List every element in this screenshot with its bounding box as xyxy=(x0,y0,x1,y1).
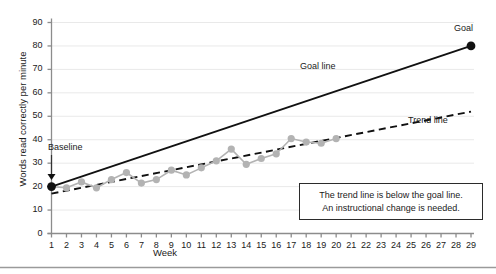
data-point xyxy=(78,178,85,185)
baseline-point xyxy=(47,182,56,191)
goal-point xyxy=(467,42,476,51)
y-tick-label: 30 xyxy=(21,157,43,167)
data-point xyxy=(183,171,190,178)
y-tick-label: 90 xyxy=(21,17,43,27)
baseline-arrow-head xyxy=(48,174,56,180)
data-point xyxy=(93,184,100,191)
data-point xyxy=(63,184,70,191)
trend-line-label: Trend line xyxy=(408,116,448,125)
baseline-arrow xyxy=(48,155,56,180)
y-tick-label: 60 xyxy=(21,87,43,97)
instructional-callout-box: The trend line is below the goal line. A… xyxy=(299,183,483,220)
data-point xyxy=(198,164,205,171)
data-point xyxy=(213,157,220,164)
data-point xyxy=(243,161,250,168)
data-point xyxy=(228,146,235,153)
y-tick-label: 20 xyxy=(21,181,43,191)
x-tick-label: 29 xyxy=(461,240,481,250)
goal-line-label: Goal line xyxy=(300,62,336,71)
y-tick-label: 10 xyxy=(21,204,43,214)
data-point xyxy=(108,176,115,183)
y-tick-label: 40 xyxy=(21,134,43,144)
data-point xyxy=(318,140,325,147)
baseline-annotation-label: Baseline xyxy=(48,143,83,152)
y-tick-label: 0 xyxy=(21,228,43,238)
data-point xyxy=(123,169,130,176)
data-point xyxy=(303,138,310,145)
chart-figure: Words read correctly per minute Week Bas… xyxy=(0,0,496,274)
data-point xyxy=(153,176,160,183)
chart-canvas xyxy=(0,0,496,274)
data-point xyxy=(333,135,340,142)
data-point xyxy=(273,150,280,157)
data-point xyxy=(258,155,265,162)
data-point xyxy=(288,135,295,142)
callout-line-1: The trend line is below the goal line. xyxy=(319,189,463,201)
data-point xyxy=(138,179,145,186)
y-tick-label: 70 xyxy=(21,63,43,73)
callout-line-2: An instructional change is needed. xyxy=(322,202,460,214)
goal-annotation-label: Goal xyxy=(454,24,473,33)
data-point xyxy=(168,167,175,174)
y-tick-label: 80 xyxy=(21,40,43,50)
y-tick-label: 50 xyxy=(21,110,43,120)
